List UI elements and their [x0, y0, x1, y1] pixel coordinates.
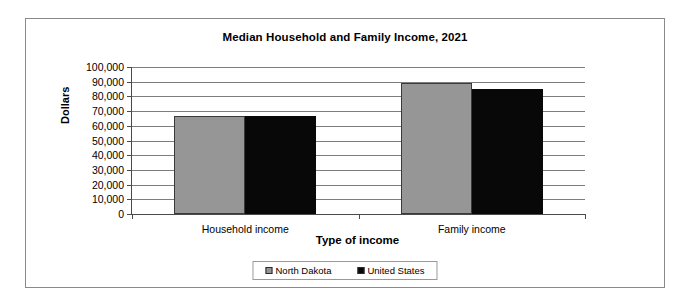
- legend-item-united-states: United States: [357, 265, 424, 276]
- legend-label: United States: [367, 265, 424, 276]
- y-axis-tick-label: 80,000: [92, 90, 124, 102]
- y-axis-tick-label: 50,000: [92, 135, 124, 147]
- y-axis-tick-label: 20,000: [92, 179, 124, 191]
- x-axis-tick: [132, 214, 133, 219]
- gridline: [132, 67, 585, 68]
- y-axis-tick: [127, 111, 132, 112]
- x-axis-tick: [585, 214, 586, 219]
- y-axis-tick-label: 70,000: [92, 105, 124, 117]
- y-axis-title: Dollars: [59, 87, 71, 124]
- bar-family-income-united-states: [472, 89, 543, 214]
- y-axis-tick: [127, 126, 132, 127]
- y-axis-tick-label: 0: [118, 208, 124, 220]
- y-axis-tick: [127, 199, 132, 200]
- legend-label: North Dakota: [275, 265, 331, 276]
- y-axis-tick: [127, 67, 132, 68]
- plot-area: 100,00090,00080,00070,00060,00050,00040,…: [131, 67, 585, 215]
- chart-legend: North DakotaUnited States: [252, 261, 437, 280]
- y-axis-tick: [127, 141, 132, 142]
- legend-swatch-icon: [357, 267, 364, 274]
- gridline: [132, 82, 585, 83]
- y-axis-tick-label: 90,000: [92, 76, 124, 88]
- y-axis-tick: [127, 96, 132, 97]
- y-axis-tick-label: 30,000: [92, 164, 124, 176]
- bar-household-income-united-states: [245, 116, 316, 214]
- legend-swatch-icon: [265, 267, 272, 274]
- y-axis-tick: [127, 155, 132, 156]
- x-axis-title: Type of income: [131, 234, 584, 246]
- chart-frame: Median Household and Family Income, 2021…: [25, 18, 665, 288]
- y-axis-tick: [127, 185, 132, 186]
- y-axis-tick-label: 60,000: [92, 120, 124, 132]
- chart-title: Median Household and Family Income, 2021: [26, 31, 664, 43]
- y-axis-tick-label: 10,000: [92, 193, 124, 205]
- x-axis-tick: [359, 214, 360, 219]
- y-axis-tick: [127, 82, 132, 83]
- legend-item-north-dakota: North Dakota: [265, 265, 331, 276]
- y-axis-tick: [127, 170, 132, 171]
- y-axis-tick-label: 100,000: [86, 61, 124, 73]
- bar-household-income-north-dakota: [174, 116, 245, 214]
- y-axis-tick-label: 40,000: [92, 149, 124, 161]
- bar-family-income-north-dakota: [401, 83, 472, 214]
